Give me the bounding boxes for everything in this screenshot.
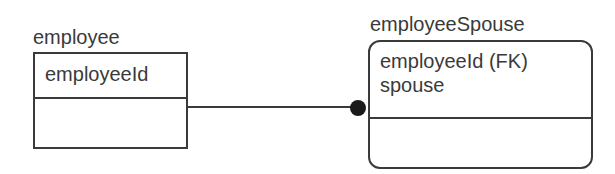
entity-employee[interactable]: employeeId	[33, 52, 188, 149]
entity-employeeSpouse[interactable]: employeeId (FK) spouse	[368, 40, 593, 169]
many-cardinality-dot-icon	[350, 100, 366, 116]
attribute-employeeId-fk: employeeId (FK)	[380, 49, 591, 73]
attribute-employeeId: employeeId	[45, 62, 186, 86]
entity-name-employee: employee	[33, 27, 120, 47]
attribute-spouse: spouse	[380, 73, 591, 97]
primary-key-section: employeeId (FK) spouse	[370, 42, 591, 119]
primary-key-section: employeeId	[35, 54, 186, 99]
entity-name-employeeSpouse: employeeSpouse	[370, 14, 525, 34]
